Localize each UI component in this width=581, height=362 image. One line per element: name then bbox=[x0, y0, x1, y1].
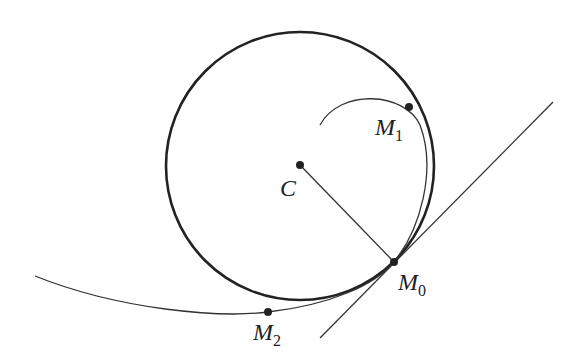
point-M0 bbox=[390, 258, 398, 266]
point-M2 bbox=[264, 308, 272, 316]
label-M1: M1 bbox=[375, 115, 403, 144]
label-M0: M0 bbox=[398, 270, 426, 299]
radius-segment bbox=[300, 165, 394, 262]
label-C: C bbox=[280, 176, 296, 200]
point-C bbox=[296, 161, 304, 169]
point-M1 bbox=[405, 103, 413, 111]
tangent-line bbox=[320, 102, 553, 338]
label-M2: M2 bbox=[253, 320, 281, 349]
